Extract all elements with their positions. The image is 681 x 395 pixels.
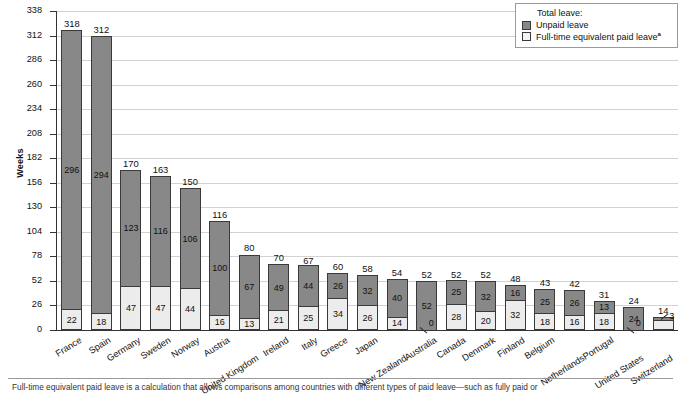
x-axis-label: Japan — [352, 335, 379, 357]
bar-group[interactable]: 29418 — [91, 36, 112, 330]
bar-segment-paid[interactable]: 26 — [357, 305, 378, 330]
bar-segment-unpaid[interactable]: 40 — [387, 279, 408, 317]
bar-value-paid: 20 — [481, 316, 491, 326]
bar-value-paid: 44 — [185, 304, 195, 314]
bar-group[interactable]: 29622 — [61, 30, 82, 330]
y-axis-tick-label: 156 — [0, 178, 42, 187]
bar-group[interactable]: 10016 — [209, 221, 230, 330]
bar-segment-unpaid[interactable]: 52 — [416, 281, 437, 330]
bar-segment-paid[interactable]: 13 — [239, 318, 260, 330]
legend-title: Total leave: — [537, 8, 671, 18]
bar-value-unpaid: 26 — [333, 281, 343, 291]
legend-label-unpaid: Unpaid leave — [536, 20, 589, 30]
footnote-text: Full-time equivalent paid leave is a cal… — [12, 382, 672, 394]
bar-segment-paid[interactable]: 34 — [327, 298, 348, 330]
bar-value-unpaid: 67 — [244, 282, 254, 292]
bar-value-paid: 32 — [510, 310, 520, 320]
bar-value-paid: 13 — [244, 319, 254, 329]
bar-value-unpaid: 25 — [451, 287, 461, 297]
bar-group[interactable]: 3226 — [357, 275, 378, 330]
bar-segment-unpaid[interactable]: 116 — [150, 176, 171, 285]
bar-value-paid: 47 — [126, 303, 136, 313]
bar-group[interactable]: 2518 — [534, 289, 555, 330]
x-axis-label: Australia — [402, 335, 438, 362]
bar-segment-paid[interactable]: 25 — [298, 306, 319, 330]
bar-group[interactable]: 12347 — [120, 170, 141, 330]
bar-group[interactable]: 11647 — [150, 176, 171, 330]
y-axis-tick-label: 260 — [0, 80, 42, 89]
bar-segment-paid[interactable]: 18 — [534, 313, 555, 330]
x-axis-label: Italy — [300, 335, 320, 352]
bar-value-unpaid: 294 — [94, 170, 109, 180]
x-axis-label: Portugal — [581, 335, 615, 362]
legend-label-paid-text: Full-time equivalent paid leave — [536, 32, 658, 42]
bar-value-unpaid: 16 — [510, 288, 520, 298]
y-axis-tick-label: 312 — [0, 31, 42, 40]
bar-group[interactable]: 52 — [416, 281, 437, 330]
bar-value-unpaid: 32 — [481, 292, 491, 302]
bar-segment-paid[interactable]: 32 — [505, 300, 526, 330]
bar-segment-unpaid[interactable]: 25 — [534, 289, 555, 313]
bar-segment-paid[interactable]: 47 — [120, 286, 141, 330]
legend-swatch-unpaid-icon — [522, 21, 531, 30]
bar-group[interactable]: 4425 — [298, 265, 319, 330]
bar-segment-unpaid[interactable]: 49 — [268, 264, 289, 310]
bar-total-label: 150 — [160, 176, 220, 187]
bar-segment-paid[interactable]: 11 — [653, 320, 674, 330]
bar-value-paid: 16 — [215, 317, 225, 327]
bar-segment-paid[interactable]: 14 — [387, 317, 408, 330]
bar-segment-unpaid[interactable]: 67 — [239, 255, 260, 318]
bar-group[interactable]: 1632 — [505, 285, 526, 330]
bar-value-paid: 14 — [392, 318, 402, 328]
bar-value-unpaid: 123 — [123, 223, 138, 233]
stacked-bar-chart: Weeks 0265278104130156182208234260286312… — [0, 0, 681, 395]
bar-value-paid: 16 — [569, 317, 579, 327]
bar-group[interactable]: 4921 — [268, 264, 289, 330]
bar-segment-unpaid[interactable]: 296 — [61, 30, 82, 309]
bar-total-label: 163 — [131, 164, 191, 175]
bar-segment-paid[interactable]: 47 — [150, 286, 171, 330]
bar-segment-unpaid[interactable]: 123 — [120, 170, 141, 286]
y-axis-tick-label: 130 — [0, 202, 42, 211]
bar-group[interactable]: 6713 — [239, 255, 260, 330]
x-axis-label: Denmark — [460, 335, 497, 363]
bar-value-paid: 0 — [429, 318, 434, 328]
bar-group[interactable]: 2634 — [327, 273, 348, 330]
y-axis-tick-label: 208 — [0, 129, 42, 138]
legend-footnote-marker: a — [658, 31, 661, 37]
bar-segment-paid[interactable]: 18 — [91, 313, 112, 330]
bar-value-paid: 18 — [96, 317, 106, 327]
y-axis-tick-label: 52 — [0, 276, 42, 285]
bar-segment-unpaid[interactable]: 100 — [209, 221, 230, 315]
legend-item-paid[interactable]: Full-time equivalent paid leavea — [522, 31, 671, 42]
bar-segment-paid[interactable]: 44 — [180, 288, 201, 330]
y-axis-tick-label: 286 — [0, 55, 42, 64]
legend-item-unpaid[interactable]: Unpaid leave — [522, 20, 671, 30]
bar-segment-unpaid[interactable]: 294 — [91, 36, 112, 313]
bar-segment-paid[interactable]: 18 — [594, 313, 615, 330]
bar-group[interactable]: 2528 — [446, 280, 467, 330]
bar-segment-unpaid[interactable]: 26 — [327, 273, 348, 298]
y-axis-tick-label: 234 — [0, 104, 42, 113]
bar-segment-unpaid[interactable]: 106 — [180, 188, 201, 288]
bar-value-paid: 0 — [636, 318, 641, 328]
bar-value-unpaid: 32 — [362, 286, 372, 296]
bar-group[interactable]: 4014 — [387, 279, 408, 330]
bar-value-unpaid: 44 — [303, 281, 313, 291]
bar-value-unpaid: 25 — [540, 297, 550, 307]
bar-value-paid: 25 — [303, 313, 313, 323]
legend: Total leave: Unpaid leave Full-time equi… — [515, 3, 678, 48]
bar-group[interactable]: 3220 — [475, 281, 496, 330]
bar-value-unpaid: 52 — [422, 301, 432, 311]
bar-segment-unpaid[interactable]: 32 — [357, 275, 378, 305]
bar-segment-paid[interactable]: 22 — [61, 309, 82, 330]
bar-segment-paid[interactable]: 16 — [209, 315, 230, 330]
bar-segment-unpaid[interactable]: 25 — [446, 280, 467, 304]
bar-segment-paid[interactable]: 20 — [475, 311, 496, 330]
bar-segment-unpaid[interactable]: 32 — [475, 281, 496, 311]
bar-segment-paid[interactable]: 16 — [564, 315, 585, 330]
bar-segment-paid[interactable]: 28 — [446, 304, 467, 330]
bar-segment-paid[interactable]: 21 — [268, 310, 289, 330]
y-axis-tick-label: 104 — [0, 227, 42, 236]
y-axis-tick-label: 78 — [0, 251, 42, 260]
